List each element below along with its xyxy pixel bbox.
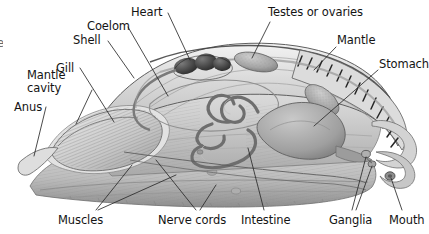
label-coelom: Coelom bbox=[87, 20, 130, 33]
leader-shell bbox=[108, 41, 134, 78]
label-mantle: Mantle bbox=[337, 34, 375, 47]
label-shell: Shell bbox=[73, 34, 101, 47]
label-ganglia: Ganglia bbox=[329, 214, 372, 227]
anatomy-figure: e Heart Coelom Shell Gill Mantle cavity … bbox=[0, 0, 429, 234]
label-muscles: Muscles bbox=[58, 214, 103, 227]
mouth bbox=[385, 172, 395, 180]
label-intestine: Intestine bbox=[241, 214, 290, 227]
label-mouth: Mouth bbox=[389, 214, 425, 227]
nerve-swelling bbox=[197, 150, 203, 154]
label-mantle-cavity: Mantle cavity bbox=[27, 69, 85, 94]
label-testes-or-ovaries: Testes or ovaries bbox=[268, 6, 363, 19]
label-heart: Heart bbox=[131, 6, 163, 19]
cropped-text-fragment: e bbox=[0, 36, 3, 50]
label-stomach: Stomach bbox=[379, 58, 429, 71]
label-anus: Anus bbox=[14, 101, 42, 114]
label-nerve-cords: Nerve cords bbox=[158, 214, 226, 227]
